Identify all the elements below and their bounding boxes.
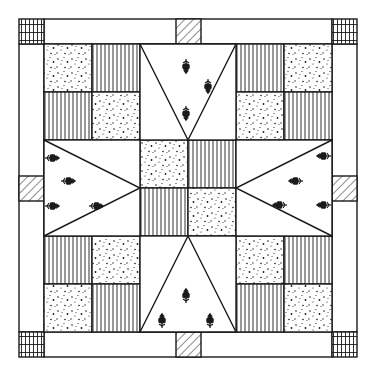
star-point-top [140, 44, 236, 140]
four-patch-bottom-right [236, 236, 332, 332]
star-point-bottom [140, 236, 236, 332]
center-right [332, 176, 357, 201]
center-left [19, 176, 44, 201]
four-patch-bottom-left [44, 236, 140, 332]
center-top [176, 19, 201, 44]
corner-top-left [19, 19, 44, 44]
star-point-right [236, 140, 332, 236]
quilt-block [0, 0, 382, 385]
corner-top-right [332, 19, 357, 44]
star-point-left [44, 140, 140, 236]
corner-bottom-left [19, 332, 44, 357]
four-patch-top-left [44, 44, 140, 140]
four-patch-top-right [236, 44, 332, 140]
four-patch-center [140, 140, 236, 236]
corner-bottom-right [332, 332, 357, 357]
center-bottom [176, 332, 201, 357]
